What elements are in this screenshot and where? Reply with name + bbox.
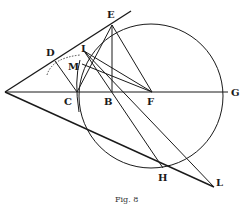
figure-caption: Fig. 8 xyxy=(115,195,138,204)
geometry-figure: E D I M C B F G H L Fig. 8 xyxy=(0,0,250,214)
label-G: G xyxy=(231,87,240,98)
label-E: E xyxy=(107,9,115,20)
label-B: B xyxy=(104,96,112,107)
label-I: I xyxy=(81,43,86,54)
label-C: C xyxy=(64,96,72,107)
label-M: M xyxy=(68,61,79,72)
line-IH xyxy=(84,51,163,168)
label-L: L xyxy=(216,177,223,188)
label-F: F xyxy=(147,96,154,107)
line-IL xyxy=(84,51,214,187)
label-D: D xyxy=(46,47,55,58)
label-H: H xyxy=(158,172,167,183)
line-EF xyxy=(112,25,152,92)
line-MF xyxy=(82,64,152,92)
